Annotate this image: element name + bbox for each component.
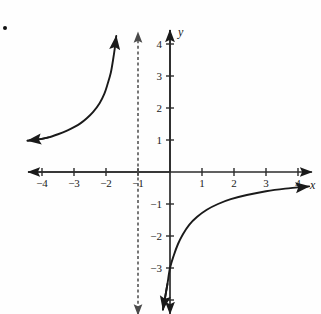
x-tick-label: −3 [68,177,80,189]
x-axis-label: x [309,178,316,192]
x-tick-label: 2 [231,177,237,189]
y-tick-label: 3 [157,70,163,82]
tick-label-group: −4−3−2−112344321−1−2−3 [36,38,301,274]
y-tick-label: 4 [157,38,163,50]
x-tick-label: −4 [36,177,48,189]
y-tick-label: −2 [150,230,162,242]
x-tick-label: −2 [100,177,112,189]
curve-right-branch-start-arrow [163,284,167,310]
bullet-marker [3,26,7,30]
curve-left-branch [28,36,117,141]
coordinate-plane: −4−3−2−112344321−1−2−3 x y [0,0,321,314]
y-axis-label: y [177,25,184,39]
y-tick-label: 2 [157,102,163,114]
y-tick-label: −1 [150,198,162,210]
y-tick-label: −3 [150,262,162,274]
x-tick-label: 3 [263,177,269,189]
curve-left-branch-start-arrow [28,137,49,140]
x-tick-label: 1 [199,177,205,189]
graph-figure: −4−3−2−112344321−1−2−3 x y [0,0,321,314]
y-tick-label: 1 [157,134,163,146]
curve-right-branch [163,186,309,309]
